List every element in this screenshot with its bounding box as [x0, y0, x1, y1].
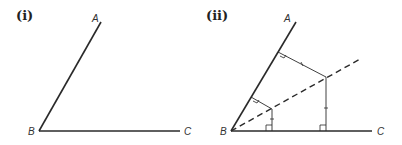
panel-i: (i) A B C: [16, 8, 192, 137]
right-angle-mark: [266, 125, 272, 131]
point-label-b: B: [220, 126, 227, 137]
angle-bisector: [231, 58, 362, 131]
diagram-canvas: (i) A B C (ii) A B C: [0, 0, 402, 145]
point-label-a: A: [283, 13, 291, 24]
ray-ba: [39, 22, 101, 131]
perpendicular-inner-to-ba: [251, 97, 272, 109]
panel-label-ii: (ii): [206, 8, 228, 23]
panel-ii: (ii) A B C: [206, 8, 385, 137]
right-angle-mark: [320, 125, 326, 131]
right-angle-mark: [253, 100, 259, 103]
panel-label-i: (i): [16, 8, 33, 23]
point-label-b: B: [28, 126, 35, 137]
point-label-c: C: [377, 126, 385, 137]
ray-ba: [231, 22, 296, 131]
point-label-c: C: [184, 126, 192, 137]
point-label-a: A: [91, 13, 99, 24]
